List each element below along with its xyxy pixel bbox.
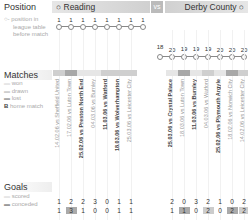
conceded-swatch-icon: ▬ (4, 201, 10, 207)
reading-position-value: 1 (53, 17, 65, 23)
derby-goals-conceded: 2 (227, 207, 238, 214)
reading-match-result (125, 70, 137, 76)
matches-legend: ▬ won ▬ drawn ▬ lost B home match (4, 80, 43, 110)
derby-match-label: 14.02.06 vs Leicester City (239, 79, 248, 142)
home-team-name: ○ Reading (56, 2, 95, 12)
reading-match-result (89, 70, 101, 76)
reading-goals-scored: 2 (66, 198, 77, 205)
reading-goals-conceded: 1 (126, 207, 137, 214)
reading-position-value: 1 (137, 17, 149, 23)
matches-title: Matches (4, 70, 52, 80)
derby-match-label: 11.03.06 vs Burnley (191, 79, 201, 130)
reading-match-result (113, 70, 125, 76)
derby-match-result (190, 70, 202, 76)
goals-legend: ▬ scored ▬ conceded (4, 193, 38, 208)
reading-goals-conceded: 3 (66, 207, 77, 214)
derby-goals-scored: 0 (227, 198, 238, 205)
reading-goals-conceded: 1 (114, 207, 125, 214)
reading-position-marker (56, 24, 62, 30)
derby-goals-conceded: 2 (203, 207, 214, 214)
derby-match-label: 18.02.06 vs Norwich City (227, 79, 237, 140)
reading-match-result (101, 70, 113, 76)
derby-match-result (226, 70, 238, 76)
derby-goals-scored: 2 (203, 198, 214, 205)
reading-position-marker (116, 24, 122, 30)
reading-goals-scored: 1 (114, 198, 125, 205)
reading-position-marker (128, 24, 134, 30)
reading-goals-scored: 2 (78, 198, 89, 205)
derby-goals-scored: 2 (167, 198, 178, 205)
derby-goals-conceded: 0 (215, 207, 226, 214)
drawn-swatch-icon: ▬ (4, 88, 10, 94)
derby-goals-conceded: 1 (167, 207, 178, 214)
derby-match-label: 25.03.06 vs Crystal Palace (167, 79, 177, 147)
derby-goals-scored: 0 (179, 198, 190, 205)
reading-goals-conceded: 1 (54, 207, 65, 214)
reading-position-value: 1 (89, 17, 101, 23)
position-title: Position (4, 2, 36, 12)
derby-goals-scored: 1 (215, 198, 226, 205)
reading-position-value: 1 (101, 17, 113, 23)
reading-match-label: 14.02.06 vs Sheffield United (54, 79, 64, 148)
circle-icon: ○ (56, 2, 64, 12)
derby-goals-scored: 2 (239, 198, 249, 205)
reading-match-label: 04.03.06 vs Burnley (90, 79, 100, 128)
derby-match-result (238, 70, 248, 76)
vs-badge: vs (151, 1, 163, 13)
derby-goals-scored: 3 (191, 198, 202, 205)
derby-goals-conceded: 0 (191, 207, 202, 214)
reading-goals-conceded: 1 (78, 207, 89, 214)
derby-match-result (166, 70, 178, 76)
reading-goals-scored: 1 (126, 198, 137, 205)
away-team-name: Derby County ○ (185, 2, 244, 12)
reading-position-marker (104, 24, 110, 30)
position-legend: ○- position in league table before match (4, 16, 48, 39)
reading-goals-scored: 0 (102, 198, 113, 205)
derby-match-label: 18.03.06 vs Luton Town (179, 79, 189, 137)
lost-swatch-icon: ▬ (4, 95, 10, 101)
won-swatch-icon: ▬ (4, 80, 10, 86)
reading-match-result (53, 70, 65, 76)
derby-goals-conceded: 1 (179, 207, 190, 214)
scored-swatch-icon: ▬ (4, 193, 10, 199)
reading-match-label: 18.03.06 vs Wolverhampton (114, 79, 124, 151)
goals-title: Goals (4, 182, 52, 192)
reading-goals-scored: 3 (90, 198, 101, 205)
reading-match-label: 25.03.06 vs Leicester City (126, 79, 136, 142)
reading-match-label: 11.03.06 vs Watford (102, 79, 112, 130)
reading-position-marker (68, 24, 74, 30)
derby-position-value: 18 (154, 44, 166, 50)
derby-position-value: 20 (238, 47, 248, 53)
derby-match-label: 25.02.06 vs Plymouth Argyle (215, 79, 225, 153)
reading-match-label: 25.02.06 vs Preston North End (78, 79, 88, 158)
reading-goals-conceded: 0 (90, 207, 101, 214)
reading-match-result (77, 70, 89, 76)
reading-position-marker (140, 24, 146, 30)
reading-match-result (65, 70, 77, 76)
derby-match-result (202, 70, 214, 76)
reading-goals-scored: 1 (54, 198, 65, 205)
reading-position-marker (92, 24, 98, 30)
reading-position-value: 1 (77, 17, 89, 23)
home-match-icon: B (4, 103, 8, 109)
circle-icon: ○ (237, 2, 245, 12)
derby-match-result (214, 70, 226, 76)
reading-goals-conceded: 0 (102, 207, 113, 214)
reading-position-value: 1 (125, 17, 137, 23)
reading-position-value: 1 (113, 17, 125, 23)
derby-match-label: 04.03.06 vs Watford (203, 79, 213, 128)
derby-match-result (178, 70, 190, 76)
derby-position-marker (157, 54, 163, 60)
derby-goals-conceded: 2 (239, 207, 249, 214)
reading-position-value: 1 (65, 17, 77, 23)
reading-match-label: 17.02.06 vs Luton Town (66, 79, 76, 137)
reading-position-marker (80, 24, 86, 30)
